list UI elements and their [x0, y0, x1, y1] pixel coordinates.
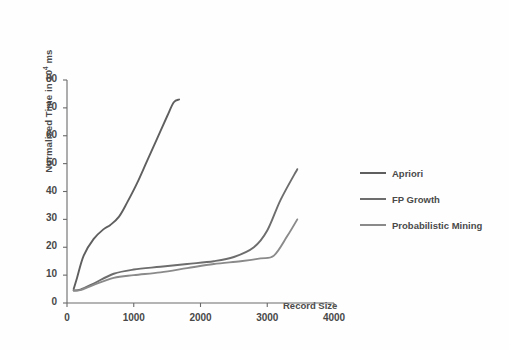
x-axis-tick-label: 2000 — [177, 312, 225, 323]
legend-item-label: FP Growth — [392, 194, 440, 205]
legend-line-icon — [360, 224, 386, 226]
y-axis-tick-label: 0 — [33, 296, 57, 307]
axes — [67, 80, 334, 303]
x-axis-tick-marks — [67, 303, 334, 307]
x-axis-tick-label: 0 — [43, 312, 91, 323]
legend-line-icon — [360, 172, 386, 174]
legend-line-icon — [360, 198, 386, 200]
y-axis-tick-marks — [63, 80, 67, 303]
y-axis-tick-label: 70 — [33, 101, 57, 112]
series-line-apriori — [74, 100, 179, 290]
x-axis-tick-label: 4000 — [310, 312, 358, 323]
legend-item-probabilistic-mining: Probabilistic Mining — [360, 212, 505, 238]
series-line-probabilistic-mining — [74, 219, 298, 290]
legend-item-label: Probabilistic Mining — [392, 220, 482, 231]
y-axis-tick-label: 60 — [33, 129, 57, 140]
y-axis-tick-label: 20 — [33, 240, 57, 251]
y-axis-tick-label: 30 — [33, 212, 57, 223]
series-line-fp-growth — [74, 169, 298, 290]
y-axis-tick-label: 10 — [33, 268, 57, 279]
chart-legend: Apriori FP Growth Probabilistic Mining — [360, 160, 505, 238]
y-axis-tick-label: 80 — [33, 73, 57, 84]
chart-figure: Normalised Time in 104 ms Record Size 01… — [0, 0, 509, 350]
x-axis-tick-label: 1000 — [110, 312, 158, 323]
y-axis-tick-label: 50 — [33, 157, 57, 168]
y-axis-tick-label: 40 — [33, 185, 57, 196]
x-axis-tick-label: 3000 — [243, 312, 291, 323]
legend-item-label: Apriori — [392, 168, 423, 179]
legend-item-apriori: Apriori — [360, 160, 505, 186]
legend-item-fp-growth: FP Growth — [360, 186, 505, 212]
data-series-group — [74, 100, 298, 291]
